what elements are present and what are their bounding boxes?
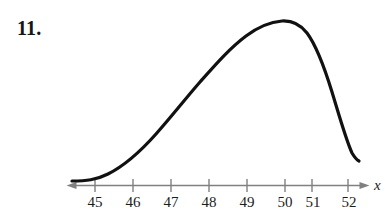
tick-label-51: 51: [306, 195, 321, 210]
curve-svg: [0, 0, 385, 212]
density-curve-path: [72, 21, 359, 181]
axis-arrowhead-right-icon: [360, 182, 370, 189]
tick-label-48: 48: [202, 195, 217, 210]
tick-label-45: 45: [88, 195, 103, 210]
distribution-curve-figure: 45 46 47 48 49 50 51 52 x: [0, 0, 385, 212]
tick-label-52: 52: [342, 195, 357, 210]
axis-arrowhead-left-icon: [67, 182, 77, 189]
tick-label-47: 47: [164, 195, 179, 210]
tick-label-49: 49: [240, 195, 255, 210]
tick-label-50: 50: [278, 195, 293, 210]
x-axis-group: [67, 179, 370, 192]
x-axis-label: x: [374, 178, 381, 193]
figure-page: 11.: [0, 0, 385, 212]
tick-label-46: 46: [126, 195, 141, 210]
